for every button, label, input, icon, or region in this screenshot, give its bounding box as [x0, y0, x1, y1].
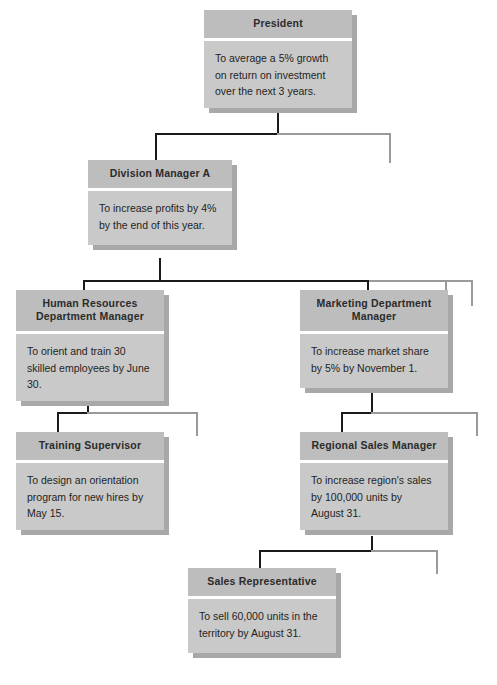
node-marketing-department-manager[interactable]: Marketing Department Manager To increase… — [300, 290, 448, 388]
connector-president-stem — [277, 112, 279, 135]
node-sales-representative[interactable]: Sales Representative To sell 60,000 unit… — [188, 568, 336, 653]
node-division-manager-a-goal: To increase profits by 4% by the end of … — [88, 191, 232, 245]
connector-marketing-bus — [341, 412, 371, 414]
node-marketing-department-manager-goal: To increase market share by 5% by Novemb… — [300, 334, 448, 388]
node-division-manager-a-title: Division Manager A — [88, 160, 232, 191]
node-training-supervisor-title: Training Supervisor — [16, 432, 164, 463]
node-regional-sales-manager[interactable]: Regional Sales Manager To increase regio… — [300, 432, 448, 530]
connector-marketing-stem — [371, 392, 373, 414]
connector-division-a-bus — [83, 280, 159, 282]
connector-division-a-drop — [155, 133, 157, 162]
node-training-supervisor-goal: To design an orientation program for new… — [16, 463, 164, 530]
node-sales-representative-title: Sales Representative — [188, 568, 336, 599]
connector-marketing-bus-right — [371, 412, 478, 414]
node-marketing-department-manager-title: Marketing Department Manager — [300, 290, 448, 334]
node-regional-sales-manager-goal: To increase region's sales by 100,000 un… — [300, 463, 448, 530]
node-president-goal: To average a 5% growth on return on inve… — [204, 41, 352, 108]
node-human-resources-department-manager[interactable]: Human Resources Department Manager To or… — [16, 290, 164, 401]
connector-division-a-stem — [159, 258, 161, 282]
connector-human-resources-bus — [57, 412, 87, 414]
connector-regional-sales-drop — [341, 412, 343, 434]
connector-sales-representative-drop — [259, 550, 261, 570]
connector-regional-sales-stub — [436, 550, 438, 574]
connector-department-stub-2 — [471, 280, 473, 306]
connector-human-resources-stub — [196, 412, 198, 436]
connector-division-a-bus-right — [159, 280, 369, 282]
node-regional-sales-manager-title: Regional Sales Manager — [300, 432, 448, 463]
node-human-resources-department-manager-goal: To orient and train 30 skilled employees… — [16, 334, 164, 401]
node-division-manager-a[interactable]: Division Manager A To increase profits b… — [88, 160, 232, 245]
connector-regional-sales-bus — [259, 550, 371, 552]
node-human-resources-department-manager-title: Human Resources Department Manager — [16, 290, 164, 334]
node-president-title: President — [204, 10, 352, 41]
connector-marketing-stub — [476, 412, 478, 436]
connector-president-bus-right — [277, 133, 391, 135]
connector-human-resources-bus-right — [87, 412, 198, 414]
connector-president-bus — [155, 133, 279, 135]
node-president[interactable]: President To average a 5% growth on retu… — [204, 10, 352, 108]
connector-training-supervisor-drop — [57, 412, 59, 434]
node-sales-representative-goal: To sell 60,000 units in the territory by… — [188, 599, 336, 653]
connector-regional-sales-bus-right — [371, 550, 438, 552]
connector-division-a-bus-far-right — [369, 280, 472, 282]
connector-division-b-stub — [389, 133, 391, 163]
org-chart: President To average a 5% growth on retu… — [0, 0, 497, 685]
node-training-supervisor[interactable]: Training Supervisor To design an orienta… — [16, 432, 164, 530]
